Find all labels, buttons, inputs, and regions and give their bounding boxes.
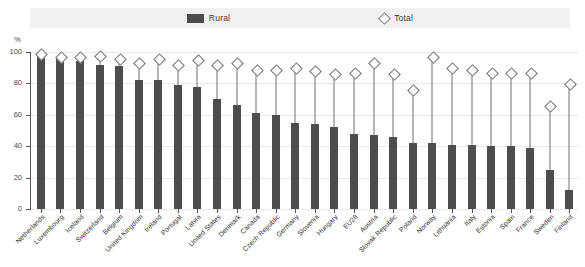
rural-bar[interactable] <box>389 137 397 209</box>
rural-bar[interactable] <box>526 148 534 209</box>
rural-bar[interactable] <box>135 80 143 209</box>
total-marker[interactable] <box>270 64 283 77</box>
bar-group[interactable] <box>403 52 423 209</box>
y-axis-tick-label: 80 <box>0 78 22 87</box>
rural-bar[interactable] <box>193 87 201 209</box>
rural-bar[interactable] <box>213 99 221 209</box>
rural-bar[interactable] <box>311 124 319 209</box>
bar-group[interactable] <box>560 52 580 209</box>
rural-bar[interactable] <box>96 65 104 209</box>
total-marker[interactable] <box>368 58 381 71</box>
total-marker[interactable] <box>310 65 323 78</box>
x-axis-label-slot: United Kingdom <box>129 211 149 267</box>
bar-group[interactable] <box>51 52 71 209</box>
rural-bar[interactable] <box>468 145 476 209</box>
bar-group[interactable] <box>344 52 364 209</box>
rural-bar[interactable] <box>154 80 162 209</box>
total-marker[interactable] <box>466 64 479 77</box>
bar-group[interactable] <box>501 52 521 209</box>
bar-group[interactable] <box>364 52 384 209</box>
total-marker[interactable] <box>486 67 499 80</box>
rural-bar[interactable] <box>487 146 495 209</box>
rural-bar[interactable] <box>76 61 84 209</box>
x-axis-label-slot: EU28 <box>344 211 364 267</box>
x-axis-label-slot: Sweden <box>540 211 560 267</box>
total-marker[interactable] <box>290 62 303 75</box>
plot-area <box>31 52 579 209</box>
legend-label-total: Total <box>394 13 413 23</box>
bar-group[interactable] <box>227 52 247 209</box>
bar-group[interactable] <box>188 52 208 209</box>
bar-group[interactable] <box>481 52 501 209</box>
y-axis-tick-label: 0 <box>0 204 22 213</box>
total-marker[interactable] <box>133 58 146 71</box>
rural-bar[interactable] <box>174 85 182 209</box>
total-marker[interactable] <box>153 53 166 66</box>
total-marker[interactable] <box>407 84 420 97</box>
rural-bar[interactable] <box>409 143 417 209</box>
rural-bar[interactable] <box>115 66 123 209</box>
bar-group[interactable] <box>168 52 188 209</box>
total-marker[interactable] <box>212 59 225 72</box>
bar-group[interactable] <box>90 52 110 209</box>
rural-bar[interactable] <box>350 134 358 209</box>
total-marker[interactable] <box>251 64 264 77</box>
bar-group[interactable] <box>266 52 286 209</box>
bar-group[interactable] <box>540 52 560 209</box>
bar-group[interactable] <box>129 52 149 209</box>
total-marker[interactable] <box>544 100 557 113</box>
bar-group[interactable] <box>148 52 168 209</box>
total-diamond-icon <box>378 12 391 25</box>
rural-bar[interactable] <box>370 135 378 209</box>
total-marker[interactable] <box>427 51 440 64</box>
y-axis-tick <box>26 178 31 179</box>
rural-bar[interactable] <box>565 190 573 209</box>
rural-bar[interactable] <box>448 145 456 209</box>
y-axis-tick <box>26 52 31 53</box>
rural-bar[interactable] <box>252 113 260 209</box>
bar-group[interactable] <box>31 52 51 209</box>
total-marker[interactable] <box>329 69 342 82</box>
rural-bar[interactable] <box>507 146 515 209</box>
total-marker[interactable] <box>525 67 538 80</box>
total-marker[interactable] <box>192 54 205 67</box>
rural-bar[interactable] <box>233 105 241 209</box>
y-axis-tick-label: 60 <box>0 110 22 119</box>
bar-group[interactable] <box>246 52 266 209</box>
total-marker[interactable] <box>447 62 460 75</box>
bar-group[interactable] <box>423 52 443 209</box>
total-marker[interactable] <box>505 67 518 80</box>
rural-bar[interactable] <box>291 123 299 209</box>
y-axis-tick <box>26 115 31 116</box>
total-marker[interactable] <box>564 78 577 91</box>
bar-group[interactable] <box>207 52 227 209</box>
rural-bar[interactable] <box>546 170 554 209</box>
bar-group[interactable] <box>462 52 482 209</box>
bar-group[interactable] <box>286 52 306 209</box>
total-marker[interactable] <box>349 67 362 80</box>
x-axis-category-label: Italy <box>462 213 476 227</box>
total-marker[interactable] <box>172 59 185 72</box>
x-axis-label-slot: Norway <box>423 211 443 267</box>
bar-group[interactable] <box>325 52 345 209</box>
bar-group[interactable] <box>109 52 129 209</box>
rural-bar[interactable] <box>330 127 338 209</box>
rural-bar[interactable] <box>56 58 64 209</box>
total-marker[interactable] <box>231 58 244 71</box>
total-marker[interactable] <box>94 50 107 63</box>
bar-group[interactable] <box>442 52 462 209</box>
bar-group[interactable] <box>520 52 540 209</box>
x-axis-label-slot: Hungary <box>325 211 345 267</box>
rural-bar[interactable] <box>272 115 280 209</box>
total-marker[interactable] <box>388 69 401 82</box>
gridline <box>31 209 579 210</box>
bar-group[interactable] <box>70 52 90 209</box>
rural-bar[interactable] <box>37 54 45 209</box>
bar-group[interactable] <box>305 52 325 209</box>
bar-group[interactable] <box>383 52 403 209</box>
y-axis-tick <box>26 146 31 147</box>
rural-bar[interactable] <box>428 143 436 209</box>
x-axis-label-slot: Czech Republic <box>266 211 286 267</box>
y-axis-tick-label: 100 <box>0 47 22 56</box>
total-marker[interactable] <box>114 53 127 66</box>
